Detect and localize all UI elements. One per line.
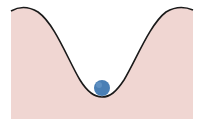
- potential-well-diagram: [0, 0, 203, 126]
- ball-highlight: [96, 82, 102, 88]
- ball: [94, 80, 110, 96]
- well-fill: [11, 8, 193, 119]
- diagram-canvas: [0, 0, 203, 126]
